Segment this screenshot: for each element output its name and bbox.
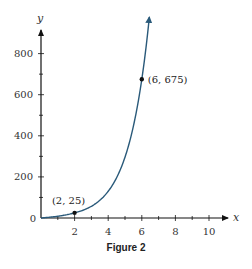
origin-label: 0	[30, 213, 36, 224]
y-tick-label: 400	[14, 130, 33, 141]
y-tick-label: 600	[14, 89, 33, 100]
x-tick-label: 2	[71, 226, 77, 237]
y-tick-label: 200	[14, 171, 33, 182]
x-tick-label: 6	[139, 226, 145, 237]
data-point	[140, 77, 144, 81]
exponential-curve	[41, 17, 149, 218]
x-axis-label: x	[233, 211, 240, 224]
labeled-points: (2, 25)(6, 675)	[52, 74, 188, 215]
y-ticks: 200400600800	[14, 48, 44, 197]
x-tick-label: 10	[203, 226, 216, 237]
point-label: (6, 675)	[148, 74, 188, 85]
x-tick-label: 8	[172, 226, 178, 237]
data-point	[72, 211, 76, 215]
x-tick-label: 4	[105, 226, 111, 237]
point-label: (2, 25)	[52, 195, 85, 206]
y-axis-label: y	[36, 12, 44, 25]
figure-caption: Figure 2	[0, 242, 252, 253]
y-tick-label: 800	[14, 48, 33, 59]
exponential-chart: 200400600800 246810 y x 0 (2, 25)(6, 675…	[0, 0, 252, 269]
